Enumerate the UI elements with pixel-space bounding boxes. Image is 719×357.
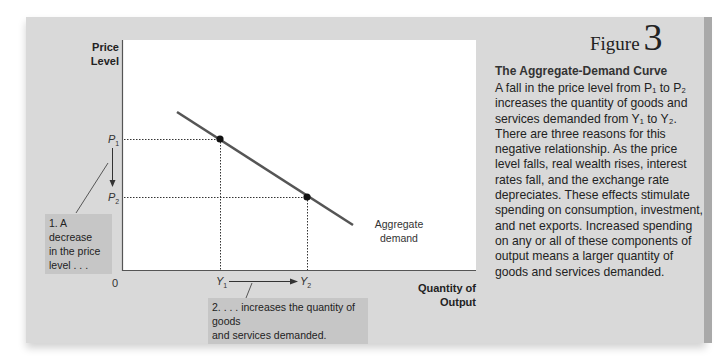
- curve-label: Aggregate demand: [374, 217, 424, 245]
- x-axis-label-line2: Output: [400, 295, 476, 309]
- curve-label-line1: Aggregate: [374, 217, 424, 231]
- x-axis-label: Quantity of Output: [400, 281, 476, 309]
- annotation-price-decrease: 1. A decrease in the price level . . .: [45, 214, 112, 274]
- annotation-line: in the price: [49, 244, 108, 258]
- figure-caption: A fall in the price level from P₁ to P₂ …: [495, 81, 705, 280]
- annotation-line: 1. A decrease: [49, 216, 108, 244]
- x-axis-label-line1: Quantity of: [400, 281, 476, 295]
- y-axis-label-line2: Level: [60, 54, 119, 68]
- annotation-line: level . . .: [49, 258, 108, 272]
- tick-y1: Y1: [216, 275, 227, 289]
- tick-p2: P2: [108, 191, 119, 205]
- y-axis-label-line1: Price: [60, 40, 119, 54]
- y-axis-label: Price Level: [60, 40, 119, 68]
- annotation-line: 2. . . . increases the quantity of goods: [212, 300, 364, 328]
- curve-label-line2: demand: [374, 231, 424, 245]
- figure-num: 3: [644, 16, 663, 58]
- figure-number: Figure3: [590, 18, 663, 56]
- origin-label: 0: [112, 277, 118, 289]
- figure-title: The Aggregate-Demand Curve: [495, 64, 667, 78]
- figure-word: Figure: [590, 33, 640, 54]
- annotation-quantity-increase: 2. . . . increases the quantity of goods…: [208, 298, 368, 344]
- tick-y2: Y2: [300, 275, 311, 289]
- tick-p1: P1: [108, 133, 119, 147]
- annotation-line: and services demanded.: [212, 328, 364, 342]
